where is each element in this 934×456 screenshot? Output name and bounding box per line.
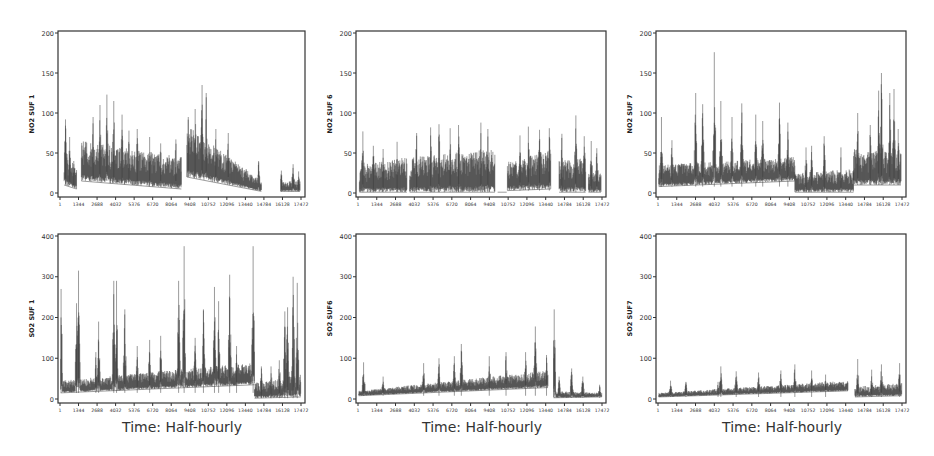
x-tick-label: 4032 bbox=[708, 408, 720, 413]
x-axis-title: Time: Half-hourly bbox=[357, 419, 607, 435]
x-tick-label: 13440 bbox=[238, 202, 253, 207]
x-tick-label: 17472 bbox=[895, 408, 910, 413]
x-tick-label: 16128 bbox=[876, 202, 891, 207]
y-tick-label: 100 bbox=[340, 355, 352, 363]
x-tick-label: 8064 bbox=[765, 408, 777, 413]
y-tick-label: 0 bbox=[348, 190, 352, 198]
x-tick-label: 13440 bbox=[538, 408, 553, 413]
y-tick-label: 0 bbox=[648, 396, 652, 404]
x-tick-label: 5376 bbox=[128, 202, 140, 207]
x-tick-label: 16128 bbox=[275, 202, 290, 207]
plot-area: 0501001502001134426884032537667208064940… bbox=[0, 0, 320, 220]
x-tick-label: 9408 bbox=[484, 408, 496, 413]
x-tick-label: 1344 bbox=[73, 202, 85, 207]
x-tick-label: 5376 bbox=[427, 408, 439, 413]
x-tick-label: 16128 bbox=[576, 202, 591, 207]
y-tick-label: 0 bbox=[348, 396, 352, 404]
y-tick-label: 150 bbox=[640, 70, 652, 78]
y-tick-label: 50 bbox=[344, 150, 352, 158]
x-tick-label: 12096 bbox=[520, 202, 535, 207]
x-tick-label: 6720 bbox=[147, 408, 159, 413]
y-tick-label: 400 bbox=[640, 233, 652, 241]
x-tick-label: 2688 bbox=[690, 408, 702, 413]
x-tick-label: 14784 bbox=[257, 408, 272, 413]
x-tick-label: 13440 bbox=[538, 202, 553, 207]
y-tick-label: 100 bbox=[640, 355, 652, 363]
y-axis-label: NO2 SUF 1 bbox=[28, 94, 36, 133]
y-tick-label: 300 bbox=[640, 273, 652, 281]
x-tick-label: 14784 bbox=[857, 202, 872, 207]
x-tick-label: 10752 bbox=[201, 408, 216, 413]
y-tick-label: 0 bbox=[648, 190, 652, 198]
x-tick-label: 9408 bbox=[184, 202, 196, 207]
x-tick-label: 2688 bbox=[390, 202, 402, 207]
x-tick-label: 5376 bbox=[727, 408, 739, 413]
x-tick-label: 14784 bbox=[857, 408, 872, 413]
x-tick-label: 13440 bbox=[238, 408, 253, 413]
x-tick-label: 12096 bbox=[220, 408, 235, 413]
x-tick-label: 10752 bbox=[501, 408, 516, 413]
x-tick-label: 16128 bbox=[876, 408, 891, 413]
x-tick-label: 12096 bbox=[820, 408, 835, 413]
x-tick-label: 14784 bbox=[257, 202, 272, 207]
x-axis-title: Time: Half-hourly bbox=[57, 419, 307, 435]
plot-area: 0501001502001134426884032537667208064940… bbox=[300, 0, 620, 220]
x-tick-label: 10752 bbox=[801, 408, 816, 413]
x-tick-label: 1344 bbox=[73, 408, 85, 413]
y-axis-label: NO2 SUF 7 bbox=[626, 95, 634, 134]
x-tick-label: 13440 bbox=[838, 202, 853, 207]
x-axis-title: Time: Half-hourly bbox=[657, 419, 907, 435]
y-tick-label: 400 bbox=[340, 233, 352, 241]
y-tick-label: 400 bbox=[42, 233, 54, 241]
x-tick-label: 2688 bbox=[390, 408, 402, 413]
x-tick-label: 12096 bbox=[820, 202, 835, 207]
y-tick-label: 200 bbox=[340, 30, 352, 38]
x-tick-label: 10752 bbox=[201, 202, 216, 207]
y-tick-label: 100 bbox=[42, 110, 54, 118]
y-tick-label: 200 bbox=[640, 314, 652, 322]
x-tick-label: 1 bbox=[657, 408, 660, 413]
x-tick-label: 9408 bbox=[784, 202, 796, 207]
y-tick-label: 100 bbox=[640, 110, 652, 118]
chart-so2-suf7: 0100200300400113442688403253766720806494… bbox=[600, 220, 920, 456]
x-tick-label: 1344 bbox=[671, 408, 683, 413]
y-tick-label: 0 bbox=[50, 396, 54, 404]
y-tick-label: 300 bbox=[42, 273, 54, 281]
x-tick-label: 4032 bbox=[110, 408, 122, 413]
y-tick-label: 300 bbox=[340, 273, 352, 281]
y-axis-label: SO2 SUF 1 bbox=[28, 299, 36, 338]
chart-no2-suf6: 0501001502001134426884032537667208064940… bbox=[300, 0, 620, 220]
x-tick-label: 9408 bbox=[184, 408, 196, 413]
x-tick-label: 2688 bbox=[91, 202, 103, 207]
x-tick-label: 10752 bbox=[801, 202, 816, 207]
x-tick-label: 8064 bbox=[165, 408, 177, 413]
plot-area: 0501001502001134426884032537667208064940… bbox=[600, 0, 920, 220]
x-tick-label: 12096 bbox=[520, 408, 535, 413]
y-tick-label: 150 bbox=[340, 70, 352, 78]
y-axis-label: SO2 SUF6 bbox=[326, 300, 334, 336]
x-tick-label: 6720 bbox=[446, 408, 458, 413]
x-tick-label: 1 bbox=[59, 202, 62, 207]
chart-so2-suf1: 0100200300400113442688403253766720806494… bbox=[0, 220, 320, 456]
x-tick-label: 1344 bbox=[671, 202, 683, 207]
x-tick-label: 1 bbox=[357, 408, 360, 413]
x-tick-label: 13440 bbox=[838, 408, 853, 413]
x-tick-label: 5376 bbox=[427, 202, 439, 207]
y-tick-label: 200 bbox=[340, 314, 352, 322]
y-tick-label: 200 bbox=[42, 314, 54, 322]
x-tick-label: 14784 bbox=[557, 202, 572, 207]
x-tick-label: 10752 bbox=[501, 202, 516, 207]
x-tick-label: 8064 bbox=[465, 202, 477, 207]
x-tick-label: 6720 bbox=[147, 202, 159, 207]
x-tick-label: 9408 bbox=[784, 408, 796, 413]
x-tick-label: 12096 bbox=[220, 202, 235, 207]
plot-frame bbox=[356, 234, 606, 403]
x-tick-label: 4032 bbox=[110, 202, 122, 207]
x-tick-label: 16128 bbox=[576, 408, 591, 413]
x-tick-label: 16128 bbox=[275, 408, 290, 413]
y-axis-label: NO2 SUF 6 bbox=[326, 94, 334, 133]
x-tick-label: 5376 bbox=[727, 202, 739, 207]
x-tick-label: 1344 bbox=[371, 202, 383, 207]
x-tick-label: 14784 bbox=[557, 408, 572, 413]
chart-so2-suf6: 0100200300400113442688403253766720806494… bbox=[300, 220, 620, 456]
